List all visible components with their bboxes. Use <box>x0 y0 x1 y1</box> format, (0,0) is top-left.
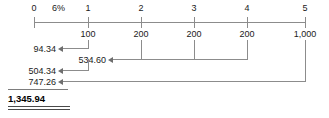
interest-rate-label: 6% <box>52 3 65 13</box>
total-present-value-label: 1,345.94 <box>8 93 45 104</box>
connector-horizontal-pv4 <box>62 81 306 82</box>
axis-tick-0 <box>34 17 35 28</box>
axis-tick-1 <box>88 17 89 28</box>
present-value-label-747-26: 747.26 <box>8 77 56 87</box>
period-label-2: 2 <box>133 3 149 13</box>
present-value-label-504-34: 504.34 <box>8 66 56 76</box>
period-label-4: 4 <box>239 3 255 13</box>
cash-flow-label-period-3: 200 <box>179 29 209 39</box>
cash-flow-timeline-diagram: 0 1 2 3 4 5 6% 100 200 200 200 1,000 94.… <box>0 0 329 118</box>
timeline-axis-line <box>34 22 305 23</box>
total-rule-above <box>8 89 68 90</box>
cash-flow-label-period-1: 100 <box>73 29 103 39</box>
connector-horizontal-pv3 <box>62 70 89 71</box>
cash-flow-label-period-4: 200 <box>232 29 262 39</box>
connector-vertical-period4-to-pv2 <box>247 40 248 60</box>
connector-horizontal-pv1 <box>62 48 89 49</box>
period-label-1: 1 <box>80 3 96 13</box>
axis-tick-5 <box>305 17 306 28</box>
axis-tick-4 <box>247 17 248 28</box>
arrow-head-pv3 <box>58 68 63 74</box>
connector-vertical-period2-to-pv2 <box>141 40 142 60</box>
axis-tick-2 <box>141 17 142 28</box>
period-label-0: 0 <box>26 3 42 13</box>
present-value-label-94-34: 94.34 <box>12 44 56 54</box>
period-label-5: 5 <box>297 3 313 13</box>
connector-vertical-period3-to-pv2 <box>194 40 195 60</box>
axis-tick-3 <box>194 17 195 28</box>
arrow-head-pv4 <box>58 79 63 85</box>
connector-horizontal-pv2 <box>112 59 248 60</box>
total-rule-below-second <box>8 109 70 110</box>
present-value-label-534-60: 534.60 <box>58 55 106 65</box>
connector-vertical-period5-to-pv4 <box>305 40 306 82</box>
period-label-3: 3 <box>186 3 202 13</box>
cash-flow-label-period-2: 200 <box>126 29 156 39</box>
total-rule-below-first <box>8 106 70 107</box>
cash-flow-label-period-5: 1,000 <box>287 29 323 39</box>
arrow-head-pv2 <box>108 57 113 63</box>
arrow-head-pv1 <box>58 46 63 52</box>
